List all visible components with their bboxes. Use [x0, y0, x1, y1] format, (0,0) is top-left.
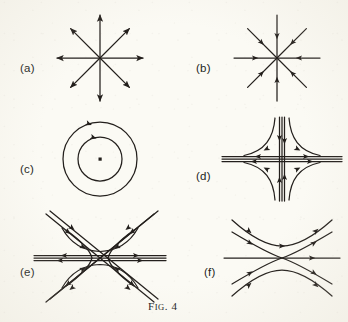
caption-initial: F [148, 300, 155, 312]
panel-label-b: (b) [196, 62, 211, 74]
panel-f-degenerate-saddle [224, 220, 340, 296]
panel-label-d: (d) [196, 170, 211, 182]
panel-c-centre [63, 120, 137, 196]
caption-smallcaps: IG [155, 302, 165, 312]
panel-e-saddle-diagonal [34, 211, 166, 302]
panel-label-a: (a) [20, 62, 35, 74]
figure-page: (a) (b) (c) (d) (e) (f) FIG. 4 [0, 0, 348, 322]
panel-label-f: (f) [204, 266, 215, 278]
critical-point-dot [99, 158, 102, 161]
panel-a-unstable-node [57, 15, 143, 101]
panel-label-e: (e) [20, 266, 35, 278]
panel-label-c: (c) [20, 163, 34, 175]
figure-caption: FIG. 4 [148, 300, 178, 312]
panel-d-saddle [222, 117, 342, 201]
phase-portrait-figure [0, 0, 348, 322]
caption-number: . 4 [165, 300, 178, 312]
panel-b-stable-node [234, 15, 320, 101]
